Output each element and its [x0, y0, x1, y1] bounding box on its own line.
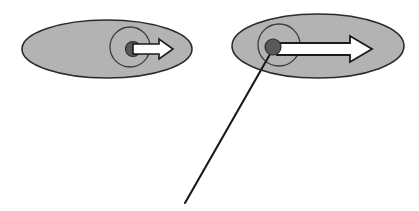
- left-object-group: [22, 20, 192, 78]
- diagram-canvas: [0, 0, 419, 211]
- figure-root: [0, 0, 419, 211]
- right-center-dot: [265, 39, 281, 55]
